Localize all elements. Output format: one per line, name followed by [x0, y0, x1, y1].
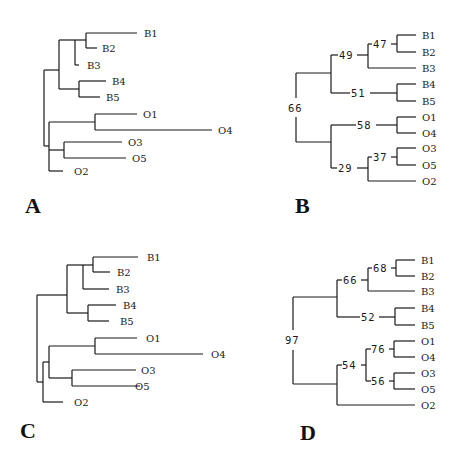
tip-label: B2 — [422, 47, 436, 58]
panel-label-d: D — [300, 420, 316, 445]
panel-b-support-values: 66 49 47 51 58 29 37 — [288, 38, 388, 174]
panel-label-b: B — [295, 193, 310, 218]
support-value: 76 — [371, 343, 386, 355]
tip-label: O3 — [422, 143, 437, 154]
tip-label: B3 — [421, 286, 435, 297]
support-value: 56 — [371, 375, 386, 387]
support-value: 54 — [342, 359, 357, 371]
support-value: 49 — [339, 49, 354, 61]
panel-c-tip-labels: B1 B2 B3 B4 B5 O1 O4 O3 O5 O2 — [74, 252, 226, 408]
tip-label: B4 — [123, 300, 137, 311]
tip-label: B5 — [421, 320, 435, 331]
support-value: 58 — [357, 119, 372, 131]
phylogenetic-trees-figure: B1 B2 B3 B4 B5 O1 O4 O3 O5 O2 A — [0, 0, 457, 466]
tip-label: O2 — [421, 400, 436, 411]
panel-c-tree — [37, 257, 203, 402]
tip-label: B2 — [421, 271, 435, 282]
tip-label: O2 — [422, 176, 437, 187]
tip-label: O1 — [422, 112, 437, 123]
panel-d-support-values: 97 66 68 52 54 76 56 — [285, 262, 388, 387]
tip-label: B1 — [421, 255, 435, 266]
support-value: 52 — [361, 311, 376, 323]
panel-label-c: C — [20, 418, 36, 443]
tip-label: O3 — [421, 368, 436, 379]
tip-label: O4 — [211, 349, 226, 360]
tip-label: B5 — [106, 92, 120, 103]
tip-label: O3 — [141, 365, 156, 376]
tip-label: B3 — [116, 284, 130, 295]
panel-a-tip-labels: B1 B2 B3 B4 B5 O1 O4 O3 O5 O2 — [74, 28, 233, 177]
tip-label: O5 — [422, 160, 437, 171]
tip-label: B5 — [422, 96, 436, 107]
tip-label: O5 — [135, 381, 150, 392]
tip-label: B4 — [112, 76, 126, 87]
support-value: 51 — [351, 87, 366, 99]
panel-b-tip-labels: B1 B2 B3 B4 B5 O1 O4 O3 O5 O2 — [422, 30, 437, 187]
support-value: 37 — [373, 151, 388, 163]
tip-label: B4 — [422, 79, 436, 90]
tip-label: O1 — [146, 333, 161, 344]
tip-label: O2 — [74, 397, 89, 408]
tip-label: O1 — [143, 109, 158, 120]
panel-d-tip-labels: B1 B2 B3 B4 B5 O1 O4 O3 O5 O2 — [421, 255, 436, 411]
tip-label: O1 — [421, 336, 436, 347]
tip-label: O4 — [422, 128, 437, 139]
panel-label-a: A — [25, 193, 41, 218]
tip-label: O5 — [421, 384, 436, 395]
tip-label: O2 — [74, 166, 89, 177]
tip-label: O5 — [132, 153, 147, 164]
tip-label: B3 — [87, 60, 101, 71]
tip-label: B5 — [120, 316, 134, 327]
tip-label: O4 — [218, 125, 233, 136]
tip-label: B1 — [147, 252, 161, 263]
tip-label: B4 — [421, 303, 435, 314]
support-value: 29 — [338, 162, 353, 174]
support-value: 66 — [343, 274, 358, 286]
support-value-root: 97 — [285, 334, 300, 346]
tip-label: B3 — [422, 63, 436, 74]
tip-label: B2 — [117, 267, 131, 278]
support-value-root: 66 — [288, 102, 303, 114]
panel-b-tree — [296, 35, 416, 181]
support-value: 68 — [373, 262, 388, 274]
panel-a-tree — [44, 33, 212, 171]
tip-label: B1 — [144, 28, 158, 39]
tip-label: O4 — [421, 352, 436, 363]
tip-label: O3 — [128, 137, 143, 148]
support-value: 47 — [373, 38, 388, 50]
tip-label: B2 — [102, 43, 116, 54]
tip-label: B1 — [422, 30, 436, 41]
